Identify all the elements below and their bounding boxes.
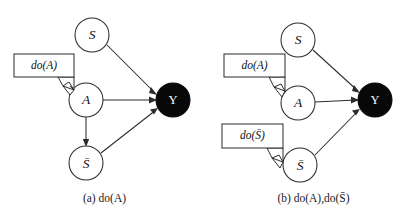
- node-y-label: Y: [168, 93, 177, 107]
- node-y[interactable]: Y: [358, 83, 392, 117]
- figure-root: S A S̄ Y do(A) (a) do(A): [0, 0, 418, 223]
- panel-b-graph: S A S̄ Y do(A) do(S̄): [209, 0, 418, 190]
- edge-sbar-to-y: [315, 111, 358, 155]
- node-y[interactable]: Y: [156, 83, 190, 117]
- caption-panel-b: (b) do(A),do(S̄): [209, 192, 418, 204]
- node-sbar-label: S̄: [83, 156, 90, 171]
- callout-do-a-label: do(A): [241, 59, 267, 72]
- arrowhead-sbar-to-y: [352, 109, 360, 116]
- caption-panel-a-text: (a) do(A): [83, 192, 126, 204]
- node-s-label: S: [295, 32, 302, 47]
- edge-s-to-y: [107, 45, 155, 93]
- callout-do-a-label: do(A): [31, 59, 57, 72]
- node-y-label: Y: [370, 93, 379, 107]
- callout-do-sbar-label: do(S̄): [240, 129, 265, 142]
- panel-a-graph: S A S̄ Y do(A): [0, 0, 209, 190]
- callout-do-a[interactable]: do(A): [14, 54, 74, 95]
- node-a[interactable]: A: [281, 86, 315, 120]
- node-sbar[interactable]: S̄: [283, 148, 317, 182]
- node-sbar-label: S̄: [297, 158, 304, 173]
- caption-panel-b-text: (b) do(A),do(S̄): [277, 192, 349, 204]
- callout-do-sbar[interactable]: do(S̄): [222, 124, 283, 168]
- edge-sbar-to-y: [101, 110, 156, 153]
- edge-s-to-y: [313, 50, 358, 91]
- callout-do-a[interactable]: do(A): [224, 54, 285, 97]
- node-s-label: S: [89, 27, 96, 42]
- node-s[interactable]: S: [281, 23, 315, 57]
- edge-a-to-y: [315, 100, 356, 102]
- node-a-label: A: [293, 95, 303, 110]
- node-sbar[interactable]: S̄: [69, 146, 103, 180]
- caption-panel-a: (a) do(A): [0, 192, 209, 204]
- node-s[interactable]: S: [75, 18, 109, 52]
- node-a-label: A: [81, 92, 91, 107]
